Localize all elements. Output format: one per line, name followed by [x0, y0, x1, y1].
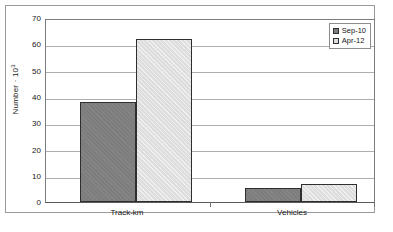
plot-area: Sep-10 Apr-12	[45, 19, 375, 203]
legend-label-apr-12: Apr-12	[342, 37, 365, 45]
legend-item-apr-12[interactable]: Apr-12	[333, 36, 366, 46]
legend-item-sep-10[interactable]: Sep-10	[333, 26, 366, 36]
y-axis-title: Number · 103	[10, 44, 21, 134]
gridline-40	[46, 99, 374, 100]
legend[interactable]: Sep-10 Apr-12	[329, 23, 371, 49]
bar-track-km-sep-10[interactable]	[80, 102, 136, 202]
y-axis-title-exponent: 3	[10, 64, 16, 68]
bar-vehicles-sep-10[interactable]	[245, 188, 301, 202]
chart-figure: Number · 103 70 60 50 40 30 20 10 0	[0, 0, 393, 232]
legend-label-sep-10: Sep-10	[342, 27, 366, 35]
x-axis-tick-end	[374, 202, 375, 207]
bar-track-km-apr-12[interactable]	[136, 39, 192, 202]
bar-vehicles-apr-12[interactable]	[301, 184, 357, 202]
legend-swatch-light-icon	[333, 38, 339, 44]
x-axis-label-vehicles: Vehicles	[209, 208, 375, 217]
gridline-60	[46, 46, 374, 47]
x-axis-tick	[210, 202, 211, 207]
legend-swatch-dark-icon	[333, 28, 339, 34]
y-axis-title-text: Number · 10	[11, 68, 20, 115]
gridline-50	[46, 72, 374, 73]
x-axis-label-track-km: Track-km	[45, 208, 209, 217]
